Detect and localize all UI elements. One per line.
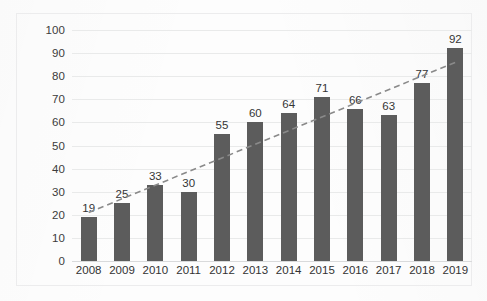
bar-group: 33: [139, 30, 172, 261]
y-axis-tick-label: 40: [52, 163, 65, 175]
bar-value-label: 92: [449, 33, 462, 45]
bar-value-label: 33: [149, 170, 162, 182]
y-axis-tick-label: 80: [52, 70, 65, 82]
x-axis-tick-label: 2019: [443, 264, 469, 276]
x-axis-tick-label: 2011: [176, 264, 201, 276]
bar-series: 192533305560647166637792: [72, 30, 472, 261]
bar-group: 25: [105, 30, 138, 261]
bar: [347, 109, 363, 261]
chart-frame: 1009080706050403020100 19253330556064716…: [16, 13, 472, 286]
x-axis-tick-label: 2009: [109, 264, 135, 276]
y-axis-tick-label: 100: [46, 24, 66, 36]
bar: [147, 185, 163, 261]
x-axis-tick-label: 2013: [243, 264, 269, 276]
bar-value-label: 60: [249, 107, 262, 119]
bar: [247, 122, 263, 261]
bar-value-label: 64: [282, 98, 295, 110]
y-axis-tick-label: 50: [52, 140, 65, 152]
bar: [281, 113, 297, 261]
bar-group: 71: [305, 30, 338, 261]
y-axis-tick-label: 90: [52, 47, 65, 59]
x-axis-tick-label: 2016: [343, 264, 369, 276]
x-axis-tick-label: 2008: [76, 264, 102, 276]
bar-group: 92: [439, 30, 472, 261]
bar-group: 19: [72, 30, 105, 261]
bar-group: 63: [372, 30, 405, 261]
bar: [381, 115, 397, 261]
y-axis-tick-label: 60: [52, 116, 65, 128]
bar: [414, 83, 430, 261]
bar-value-label: 66: [349, 94, 362, 106]
x-axis-tick-label: 2012: [209, 264, 235, 276]
y-axis-tick-label: 30: [52, 186, 65, 198]
y-axis-tick-label: 10: [52, 232, 65, 244]
bar-value-label: 77: [416, 68, 429, 80]
bar: [181, 192, 197, 261]
x-axis-tick-label: 2015: [309, 264, 335, 276]
bar: [214, 134, 230, 261]
bar: [81, 217, 97, 261]
bar-value-label: 55: [216, 119, 229, 131]
bar-value-label: 19: [82, 202, 95, 214]
x-axis-tick-label: 2014: [276, 264, 302, 276]
bar-value-label: 71: [316, 82, 329, 94]
bar-group: 66: [339, 30, 372, 261]
bar-group: 60: [239, 30, 272, 261]
x-axis-tick-label: 2017: [376, 264, 402, 276]
bar-group: 55: [205, 30, 238, 261]
bar-group: 77: [405, 30, 438, 261]
x-axis: 2008200920102011201220132014201520162017…: [72, 264, 472, 282]
y-axis-tick-label: 20: [52, 209, 65, 221]
gridline: [72, 261, 472, 262]
bar-group: 64: [272, 30, 305, 261]
bar: [447, 48, 463, 261]
bar-value-label: 30: [182, 177, 195, 189]
bar-value-label: 25: [116, 188, 129, 200]
y-axis-tick-label: 0: [59, 255, 66, 267]
x-axis-tick-label: 2010: [143, 264, 169, 276]
bar-value-label: 63: [382, 100, 395, 112]
bar: [114, 203, 130, 261]
y-axis-tick-label: 70: [52, 93, 65, 105]
bar-group: 30: [172, 30, 205, 261]
plot-area: 192533305560647166637792: [72, 30, 472, 261]
bar: [314, 97, 330, 261]
y-axis: 1009080706050403020100: [17, 30, 65, 261]
x-axis-tick-label: 2018: [409, 264, 435, 276]
